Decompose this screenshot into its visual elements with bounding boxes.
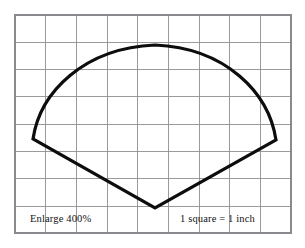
scale-label: 1 square = 1 inch xyxy=(180,213,256,224)
pattern-diagram-canvas: Enlarge 400% 1 square = 1 inch xyxy=(0,0,305,248)
pattern-figure: Enlarge 400% 1 square = 1 inch xyxy=(0,0,305,248)
enlarge-label: Enlarge 400% xyxy=(30,213,91,224)
